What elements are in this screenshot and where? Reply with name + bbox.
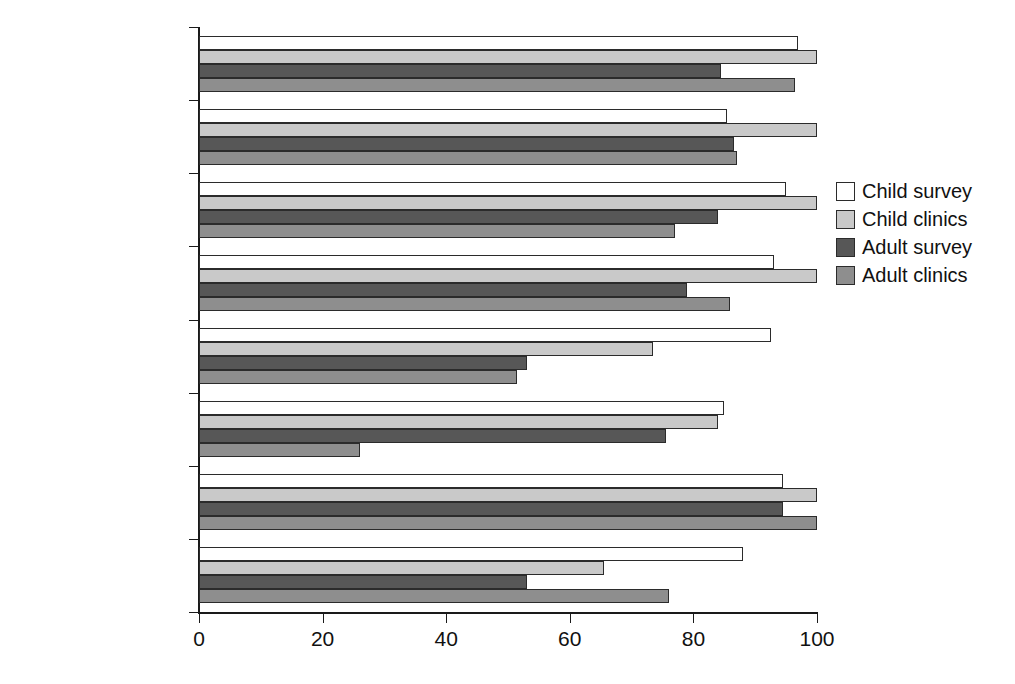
bar — [199, 547, 743, 561]
bar — [199, 443, 360, 457]
x-axis-tick-label: 20 — [293, 627, 353, 651]
legend-item: Child clinics — [836, 206, 1011, 232]
x-axis-tick-label: 0 — [169, 627, 229, 651]
bar — [199, 151, 737, 165]
y-axis-tick — [189, 612, 199, 613]
bar — [199, 415, 718, 429]
legend-item: Child survey — [836, 178, 1011, 204]
y-axis-tick — [189, 246, 199, 247]
legend-label: Adult survey — [862, 236, 972, 258]
bar — [199, 561, 604, 575]
y-axis-tick — [189, 27, 199, 28]
bar — [199, 36, 798, 50]
category-axis-labels: Northern IrelandNorth WesternMerseyWest … — [0, 0, 188, 684]
bar — [199, 224, 675, 238]
x-axis-tick-label: 100 — [787, 627, 847, 651]
y-axis-tick — [189, 173, 199, 174]
bar — [199, 356, 527, 370]
bar — [199, 269, 817, 283]
bar — [199, 196, 817, 210]
bar — [199, 297, 730, 311]
bar — [199, 283, 687, 297]
bar — [199, 575, 527, 589]
legend-item: Adult survey — [836, 234, 1011, 260]
bar — [199, 210, 718, 224]
x-axis-tick-label: 60 — [540, 627, 600, 651]
bar — [199, 328, 771, 342]
legend-swatch-icon — [836, 266, 855, 285]
x-axis-tick — [323, 613, 324, 623]
bar — [199, 182, 786, 196]
plot-area: 020406080100 — [199, 27, 817, 612]
x-axis-tick — [446, 613, 447, 623]
bar — [199, 502, 783, 516]
legend-label: Adult clinics — [862, 264, 968, 286]
x-axis-tick — [570, 613, 571, 623]
x-axis-tick — [817, 613, 818, 623]
legend: Child surveyChild clinicsAdult surveyAdu… — [836, 178, 1011, 290]
legend-label: Child survey — [862, 180, 972, 202]
y-axis-tick — [189, 466, 199, 467]
bar — [199, 78, 795, 92]
x-axis-tick — [693, 613, 694, 623]
x-axis-line — [198, 612, 818, 614]
x-axis-tick — [199, 613, 200, 623]
bar — [199, 50, 817, 64]
y-axis-tick — [189, 100, 199, 101]
bar — [199, 255, 774, 269]
legend-swatch-icon — [836, 182, 855, 201]
bar — [199, 516, 817, 530]
bar-chart: Northern IrelandNorth WesternMerseyWest … — [0, 0, 1015, 684]
x-axis-tick-label: 40 — [416, 627, 476, 651]
bar — [199, 342, 653, 356]
bar — [199, 474, 783, 488]
bar — [199, 370, 517, 384]
bar — [199, 429, 666, 443]
bar — [199, 64, 721, 78]
bar — [199, 589, 669, 603]
y-axis-tick — [189, 393, 199, 394]
x-axis-tick-label: 80 — [663, 627, 723, 651]
legend-swatch-icon — [836, 210, 855, 229]
legend-label: Child clinics — [862, 208, 968, 230]
bar — [199, 109, 727, 123]
bar — [199, 401, 724, 415]
legend-item: Adult clinics — [836, 262, 1011, 288]
legend-swatch-icon — [836, 238, 855, 257]
y-axis-tick — [189, 539, 199, 540]
bar — [199, 488, 817, 502]
y-axis-tick — [189, 320, 199, 321]
bar — [199, 137, 734, 151]
bar — [199, 123, 817, 137]
